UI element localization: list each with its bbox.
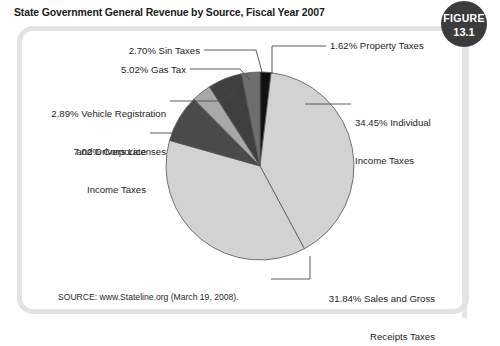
label-corporate-income-taxes-line1: 7.02% Corporate <box>0 146 146 159</box>
label-corporate-income-taxes: 7.02% Corporate Income Taxes <box>0 121 146 221</box>
pie-slice-group <box>166 72 354 260</box>
label-individual-income-taxes: 34.45% Individual Income Taxes <box>355 92 500 192</box>
label-sales-gross-receipts-taxes-line2: Receipts Taxes <box>275 331 435 344</box>
label-vehicle-registration-line1: 2.89% Vehicle Registration <box>0 108 166 121</box>
leader-line-property <box>272 46 326 74</box>
source-note: SOURCE: www.Stateline.org (March 19, 200… <box>58 292 239 302</box>
label-sales-gross-receipts-taxes-line1: 31.84% Sales and Gross <box>275 293 435 306</box>
label-individual-income-taxes-line2: Income Taxes <box>355 155 500 168</box>
label-individual-income-taxes-line1: 34.45% Individual <box>355 117 500 130</box>
label-gas-tax: 5.02% Gas Tax <box>0 64 186 77</box>
label-corporate-income-taxes-line2: Income Taxes <box>0 184 146 197</box>
label-sales-gross-receipts-taxes: 31.84% Sales and Gross Receipts Taxes <box>275 268 435 346</box>
label-sin-taxes: 2.70% Sin Taxes <box>0 45 200 58</box>
label-property-taxes: 1.62% Property Taxes <box>330 40 495 53</box>
